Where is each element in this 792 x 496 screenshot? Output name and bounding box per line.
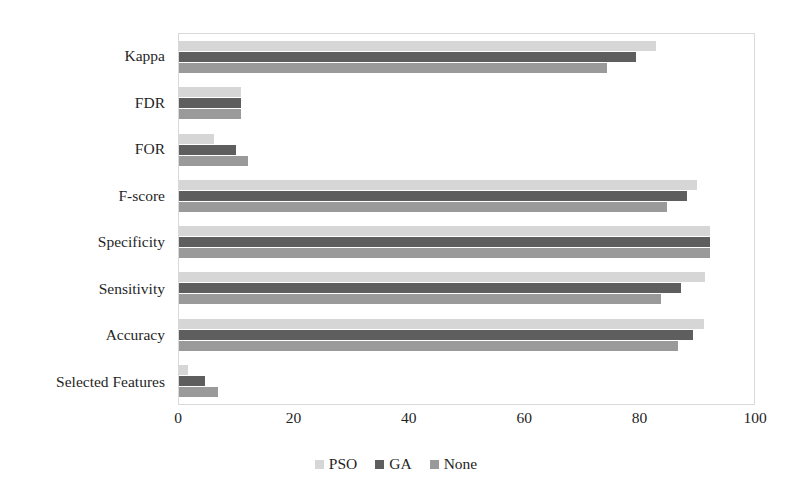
bar-group xyxy=(179,312,754,358)
bar-ga[interactable] xyxy=(179,283,681,293)
bar-track xyxy=(179,272,754,282)
y-axis-label: Specificity xyxy=(0,219,172,266)
y-axis-label: Accuracy xyxy=(0,312,172,359)
bar-pso[interactable] xyxy=(179,87,241,97)
y-axis-label: F-score xyxy=(0,173,172,220)
y-axis-label: Kappa xyxy=(0,33,172,80)
x-axis-tick: 60 xyxy=(516,409,532,427)
bar-none[interactable] xyxy=(179,248,710,258)
bar-pso[interactable] xyxy=(179,272,705,282)
bar-track xyxy=(179,248,754,258)
bar-ga[interactable] xyxy=(179,191,687,201)
x-axis-tick: 80 xyxy=(632,409,648,427)
x-axis-tick-labels: 020406080100 xyxy=(178,409,755,435)
bar-pso[interactable] xyxy=(179,226,710,236)
bar-pso[interactable] xyxy=(179,180,697,190)
y-axis-label: Selected Features xyxy=(0,359,172,406)
bar-group xyxy=(179,127,754,173)
x-axis-tick: 0 xyxy=(174,409,182,427)
y-axis-label: FDR xyxy=(0,80,172,127)
bar-none[interactable] xyxy=(179,63,607,73)
x-axis-tick: 40 xyxy=(401,409,417,427)
bar-none[interactable] xyxy=(179,156,248,166)
bar-group xyxy=(179,80,754,126)
bar-track xyxy=(179,283,754,293)
bar-track xyxy=(179,98,754,108)
bar-ga[interactable] xyxy=(179,237,710,247)
bar-track xyxy=(179,202,754,212)
bar-none[interactable] xyxy=(179,109,241,119)
bar-track xyxy=(179,237,754,247)
legend-label: None xyxy=(444,455,478,473)
y-axis-label: FOR xyxy=(0,126,172,173)
legend-item-none[interactable]: None xyxy=(430,455,478,473)
x-axis-tick: 20 xyxy=(286,409,302,427)
bar-track xyxy=(179,319,754,329)
bar-track xyxy=(179,365,754,375)
bar-groups xyxy=(179,34,754,404)
bar-group xyxy=(179,358,754,404)
bar-none[interactable] xyxy=(179,202,667,212)
legend-item-pso[interactable]: PSO xyxy=(315,455,357,473)
chart-legend: PSOGANone xyxy=(0,455,792,473)
bar-group xyxy=(179,34,754,80)
legend-item-ga[interactable]: GA xyxy=(375,455,411,473)
bar-pso[interactable] xyxy=(179,365,188,375)
bar-track xyxy=(179,109,754,119)
bar-track xyxy=(179,63,754,73)
legend-swatch-icon xyxy=(375,460,384,469)
bar-group xyxy=(179,173,754,219)
legend-label: PSO xyxy=(329,455,357,473)
bar-track xyxy=(179,156,754,166)
bar-chart: KappaFDRFORF-scoreSpecificitySensitivity… xyxy=(0,0,792,496)
bar-track xyxy=(179,145,754,155)
bar-track xyxy=(179,376,754,386)
legend-label: GA xyxy=(389,455,411,473)
bar-track xyxy=(179,294,754,304)
bar-track xyxy=(179,52,754,62)
bar-track xyxy=(179,341,754,351)
bar-pso[interactable] xyxy=(179,134,214,144)
bar-ga[interactable] xyxy=(179,98,241,108)
bar-none[interactable] xyxy=(179,294,661,304)
bar-none[interactable] xyxy=(179,387,218,397)
bar-group xyxy=(179,219,754,265)
bar-ga[interactable] xyxy=(179,145,236,155)
bar-pso[interactable] xyxy=(179,41,656,51)
bar-track xyxy=(179,226,754,236)
bar-track xyxy=(179,41,754,51)
legend-swatch-icon xyxy=(430,460,439,469)
bar-pso[interactable] xyxy=(179,319,704,329)
bar-ga[interactable] xyxy=(179,376,205,386)
bar-group xyxy=(179,265,754,311)
y-axis-category-labels: KappaFDRFORF-scoreSpecificitySensitivity… xyxy=(0,33,172,405)
bar-track xyxy=(179,191,754,201)
bar-track xyxy=(179,87,754,97)
bar-ga[interactable] xyxy=(179,330,693,340)
legend-swatch-icon xyxy=(315,460,324,469)
bar-track xyxy=(179,330,754,340)
bar-ga[interactable] xyxy=(179,52,636,62)
bar-track xyxy=(179,180,754,190)
y-axis-label: Sensitivity xyxy=(0,266,172,313)
bar-none[interactable] xyxy=(179,341,678,351)
bar-track xyxy=(179,134,754,144)
plot-area xyxy=(178,33,755,405)
x-axis-tick: 100 xyxy=(743,409,766,427)
bar-track xyxy=(179,387,754,397)
